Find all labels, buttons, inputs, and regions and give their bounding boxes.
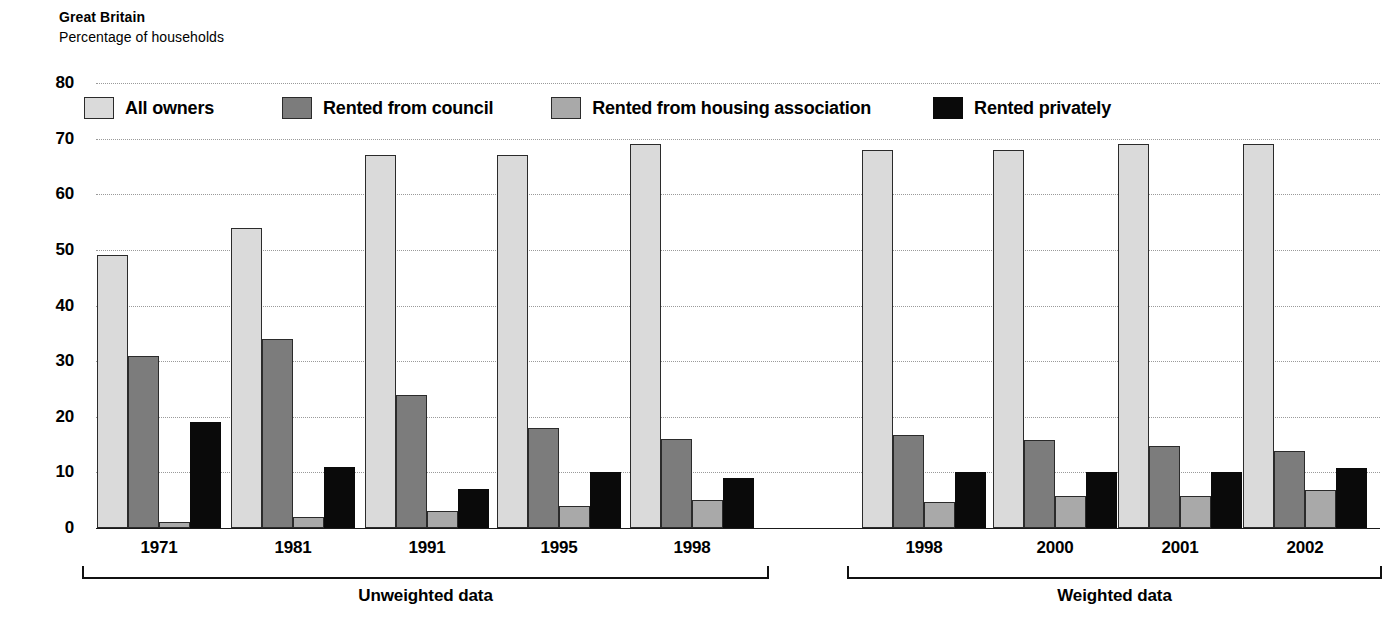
legend-swatch-all-owners bbox=[84, 97, 114, 119]
y-tick-label-20: 20 bbox=[28, 408, 74, 425]
x-axis-label-2002-weighted: 2002 bbox=[1223, 538, 1387, 558]
bar-all-owners-1998-weighted bbox=[862, 150, 893, 528]
x-axis-label-1998-unweighted: 1998 bbox=[610, 538, 774, 558]
legend-item-private: Rented privately bbox=[933, 97, 1111, 119]
bar-rented-from-housing-association-1971-unweighted bbox=[159, 522, 190, 528]
chart-header: Great Britain Percentage of households bbox=[59, 8, 759, 47]
y-tick-label-80: 80 bbox=[28, 74, 74, 91]
bar-all-owners-1981-unweighted bbox=[231, 228, 262, 528]
y-tick-label-50: 50 bbox=[28, 241, 74, 258]
bar-rented-from-council-1998-unweighted bbox=[661, 439, 692, 528]
bar-rented-from-council-2002-weighted bbox=[1274, 451, 1305, 528]
bar-rented-privately-1991-unweighted bbox=[458, 489, 489, 528]
y-tick-label-60: 60 bbox=[28, 185, 74, 202]
legend-swatch-rented-from-housing-association bbox=[551, 97, 581, 119]
bar-all-owners-2001-weighted bbox=[1118, 144, 1149, 528]
panel-label-unweighted-data: Unweighted data bbox=[82, 586, 769, 606]
bar-all-owners-1991-unweighted bbox=[365, 155, 396, 528]
gridline-40 bbox=[96, 306, 1380, 307]
legend-item-owners: All owners bbox=[84, 97, 214, 119]
panel-label-weighted-data: Weighted data bbox=[847, 586, 1382, 606]
legend-label-owners: All owners bbox=[125, 98, 214, 119]
bar-all-owners-1995-unweighted bbox=[497, 155, 528, 528]
bar-all-owners-2002-weighted bbox=[1243, 144, 1274, 528]
bar-rented-from-housing-association-1995-unweighted bbox=[559, 506, 590, 528]
y-tick-label-30: 30 bbox=[28, 352, 74, 369]
bar-all-owners-1998-unweighted bbox=[630, 144, 661, 528]
bar-rented-privately-1995-unweighted bbox=[590, 472, 621, 528]
legend-label-housing: Rented from housing association bbox=[592, 98, 871, 119]
y-tick-label-0: 0 bbox=[28, 519, 74, 536]
bar-rented-from-council-1981-unweighted bbox=[262, 339, 293, 528]
y-tick-label-40: 40 bbox=[28, 297, 74, 314]
legend-label-private: Rented privately bbox=[974, 98, 1111, 119]
y-tick-label-10: 10 bbox=[28, 463, 74, 480]
bar-rented-privately-1971-unweighted bbox=[190, 422, 221, 528]
bar-rented-from-council-1991-unweighted bbox=[396, 395, 427, 529]
bar-rented-from-council-2001-weighted bbox=[1149, 446, 1180, 528]
bar-rented-from-council-1995-unweighted bbox=[528, 428, 559, 528]
gridline-50 bbox=[96, 250, 1380, 251]
gridline-0 bbox=[96, 528, 1380, 529]
chart-legend: All ownersRented from councilRented from… bbox=[84, 97, 1111, 119]
bar-rented-privately-1981-unweighted bbox=[324, 467, 355, 528]
bar-rented-from-housing-association-2000-weighted bbox=[1055, 496, 1086, 528]
gridline-60 bbox=[96, 194, 1380, 195]
gridline-70 bbox=[96, 139, 1380, 140]
chart-figure: Great Britain Percentage of households 0… bbox=[0, 0, 1396, 626]
chart-subtitle: Percentage of households bbox=[59, 27, 759, 47]
legend-swatch-rented-privately bbox=[933, 97, 963, 119]
bar-rented-from-housing-association-2001-weighted bbox=[1180, 496, 1211, 528]
bar-rented-from-housing-association-1981-unweighted bbox=[293, 517, 324, 528]
bar-rented-privately-1998-unweighted bbox=[723, 478, 754, 528]
bracket-unweighted-data bbox=[82, 566, 769, 579]
bar-all-owners-1971-unweighted bbox=[97, 255, 128, 528]
bar-rented-from-housing-association-1991-unweighted bbox=[427, 511, 458, 528]
region-title: Great Britain bbox=[59, 8, 759, 27]
legend-item-housing: Rented from housing association bbox=[551, 97, 871, 119]
y-tick-label-70: 70 bbox=[28, 130, 74, 147]
bar-rented-privately-2000-weighted bbox=[1086, 472, 1117, 528]
legend-item-council: Rented from council bbox=[282, 97, 493, 119]
bar-rented-from-housing-association-1998-unweighted bbox=[692, 500, 723, 528]
gridline-80 bbox=[96, 83, 1380, 84]
bar-rented-privately-2002-weighted bbox=[1336, 468, 1367, 528]
bar-rented-from-housing-association-1998-weighted bbox=[924, 502, 955, 528]
bar-rented-privately-1998-weighted bbox=[955, 472, 986, 528]
bar-rented-privately-2001-weighted bbox=[1211, 472, 1242, 528]
bar-rented-from-housing-association-2002-weighted bbox=[1305, 490, 1336, 528]
plot-area: 01020304050607080 bbox=[96, 83, 1380, 528]
bar-all-owners-2000-weighted bbox=[993, 150, 1024, 528]
bar-rented-from-council-1998-weighted bbox=[893, 435, 924, 528]
bracket-weighted-data bbox=[847, 566, 1382, 579]
bar-rented-from-council-1971-unweighted bbox=[128, 356, 159, 528]
legend-label-council: Rented from council bbox=[323, 98, 493, 119]
bar-rented-from-council-2000-weighted bbox=[1024, 440, 1055, 528]
legend-swatch-rented-from-council bbox=[282, 97, 312, 119]
